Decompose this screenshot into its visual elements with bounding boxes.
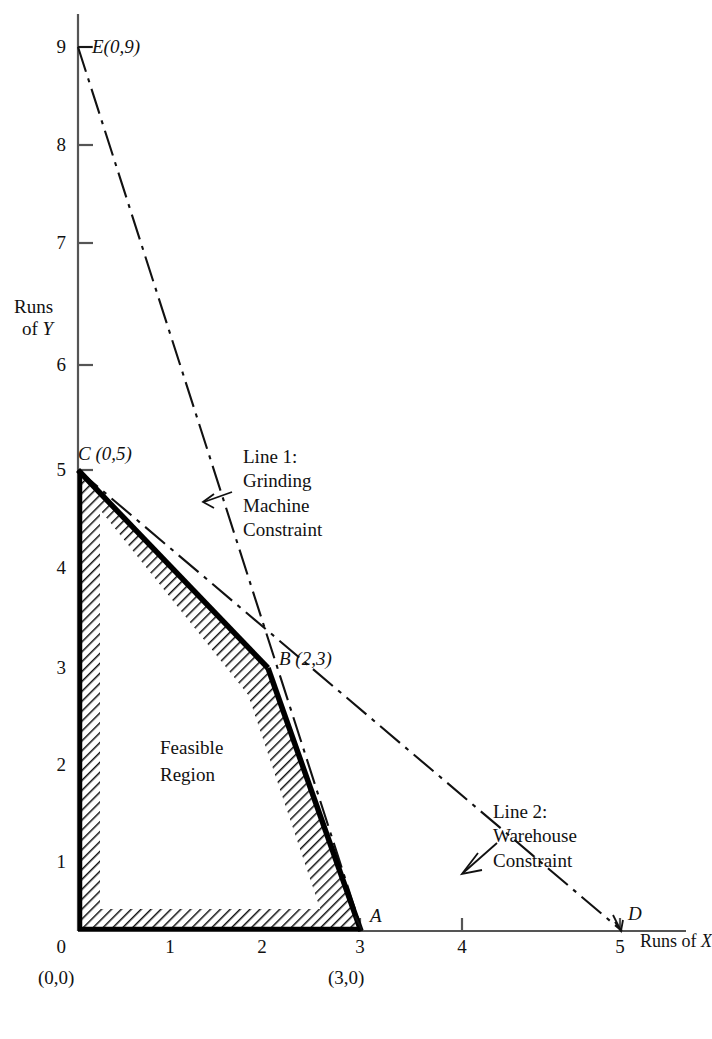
x-tick-label-5: 5	[610, 936, 630, 958]
feasible-region-interior	[100, 510, 320, 909]
y-axis-title-line-1: Runs	[14, 296, 53, 318]
y-tick-label-8: 8	[44, 134, 66, 156]
y-tick-label-5: 5	[44, 459, 66, 481]
annotation-line-1-text: Line 1: Grinding Machine Constraint	[243, 445, 322, 542]
x-tick-label-1: 1	[160, 936, 180, 958]
y-tick-label-9: 9	[44, 36, 66, 58]
point-label-D: D	[628, 903, 642, 925]
y-tick-label-3: 3	[44, 657, 66, 679]
y-tick-label-6: 6	[44, 354, 66, 376]
feasible-region-label-line-1: Feasible	[160, 737, 223, 759]
x-axis-variable: X	[701, 931, 712, 951]
y-tick-label-1: 1	[44, 851, 66, 873]
point-label-C: C (0,5)	[78, 443, 132, 465]
y-tick-label-4: 4	[44, 557, 66, 579]
x-tick-label-2: 2	[252, 936, 272, 958]
y-tick-label-0: 0	[44, 936, 66, 958]
y-tick-label-7: 7	[44, 232, 66, 254]
feasible-region-label-line-2: Region	[160, 764, 215, 786]
point-label-E: E(0,9)	[92, 36, 140, 58]
point-label-B: B (2,3)	[279, 648, 332, 670]
x-tick-label-4: 4	[452, 936, 472, 958]
annotation-arrow-line-2	[462, 843, 497, 874]
x-axis-title: Runs of X	[640, 931, 712, 952]
y-axis-title-line-2: of Y	[22, 318, 53, 340]
point-A-coordinate-label: (3,0)	[328, 967, 364, 989]
y-axis-variable: Y	[43, 318, 54, 339]
point-label-A: A	[370, 905, 382, 927]
annotation-line-2-text: Line 2: Warehouse Constraint	[493, 800, 577, 873]
y-tick-label-2: 2	[44, 754, 66, 776]
x-tick-label-3: 3	[350, 936, 370, 958]
origin-coordinate-label: (0,0)	[38, 967, 74, 989]
annotation-arrow-line-1	[203, 492, 232, 508]
